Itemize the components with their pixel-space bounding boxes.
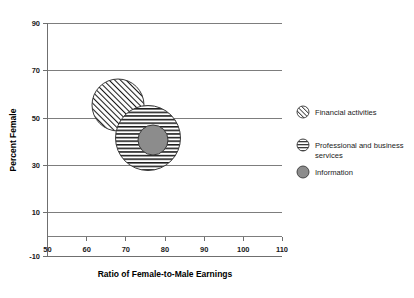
bubble-chart: 90 70 50 30 10 -10 Percent Female 50 60 bbox=[0, 0, 414, 298]
legend-label-professional-and-business-services-line2: services bbox=[315, 151, 343, 160]
y-tick-label-70: 70 bbox=[32, 66, 40, 75]
x-axis-title: Ratio of Female-to-Male Earnings bbox=[98, 269, 233, 279]
y-tick-label-30: 30 bbox=[32, 161, 40, 170]
y-tick-label-minus10: -10 bbox=[29, 252, 40, 261]
y-tick-label-90: 90 bbox=[32, 19, 40, 28]
x-tick-label-70: 70 bbox=[122, 245, 130, 254]
legend-label-professional-and-business-services: Professional and business bbox=[315, 141, 404, 150]
x-tick-label-60: 60 bbox=[83, 245, 91, 254]
x-tick-label-50: 50 bbox=[43, 245, 51, 254]
bubble-information[interactable] bbox=[138, 125, 168, 155]
chart-container: 90 70 50 30 10 -10 Percent Female 50 60 bbox=[0, 0, 414, 298]
solid-gray-swatch-icon bbox=[297, 166, 309, 178]
x-tick-label-90: 90 bbox=[200, 245, 208, 254]
y-tick-label-50: 50 bbox=[32, 114, 40, 123]
legend-label-information: Information bbox=[315, 168, 353, 177]
x-tick-label-100: 100 bbox=[237, 245, 250, 254]
horizontal-hatch-swatch-icon bbox=[297, 139, 309, 151]
diagonal-hatch-swatch-icon bbox=[297, 106, 309, 118]
y-axis-title: Percent Female bbox=[8, 108, 18, 171]
legend-item-information[interactable]: Information bbox=[297, 166, 353, 178]
x-tick-label-110: 110 bbox=[276, 245, 288, 254]
y-tick-label-10: 10 bbox=[32, 208, 40, 217]
x-tick-label-80: 80 bbox=[161, 245, 169, 254]
legend-label-financial-activities: Financial activities bbox=[315, 108, 377, 117]
